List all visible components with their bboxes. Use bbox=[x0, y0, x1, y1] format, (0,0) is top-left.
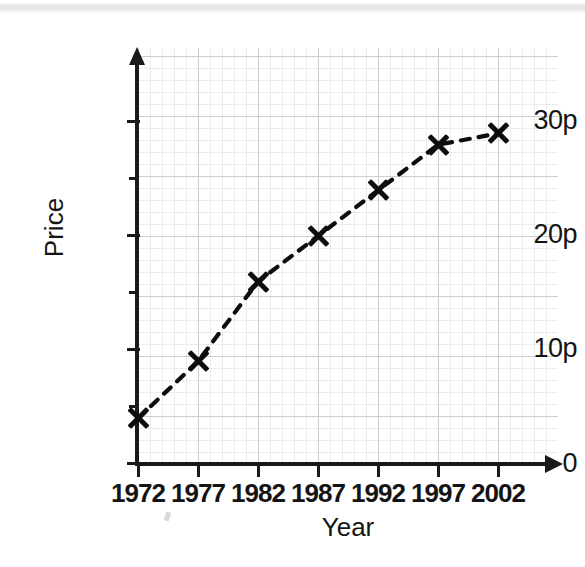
y-tick-25 bbox=[129, 177, 139, 180]
x-tick-2002 bbox=[497, 464, 500, 477]
price-vs-year-chart: 0 10p 20p 30p 1972 1977 1982 1987 1992 1… bbox=[0, 0, 585, 567]
y-tick-label-0: 0 bbox=[463, 448, 585, 479]
x-tick-1977 bbox=[197, 464, 200, 477]
x-tick-1987 bbox=[317, 464, 320, 477]
y-tick-30 bbox=[127, 120, 140, 123]
y-tick-15 bbox=[129, 291, 139, 294]
y-tick-label-30: 30p bbox=[463, 105, 585, 136]
y-tick-label-10: 10p bbox=[463, 333, 585, 364]
y-tick-20 bbox=[127, 234, 140, 237]
y-tick-10 bbox=[127, 348, 140, 351]
y-tick-5 bbox=[129, 405, 139, 408]
y-tick-label-20: 20p bbox=[463, 219, 585, 250]
y-axis-title: Price bbox=[39, 168, 70, 288]
x-tick-1997 bbox=[437, 464, 440, 477]
x-axis-title: Year bbox=[138, 512, 558, 543]
x-tick-1992 bbox=[377, 464, 380, 477]
x-tick-1972 bbox=[137, 464, 140, 477]
x-tick-1982 bbox=[257, 464, 260, 477]
x-tick-label-2002: 2002 bbox=[455, 478, 541, 509]
y-axis-arrow-icon bbox=[129, 47, 145, 65]
